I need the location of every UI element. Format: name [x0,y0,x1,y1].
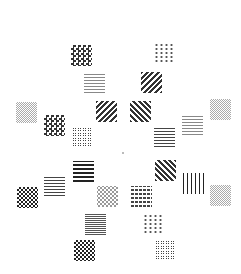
pattern-tile [74,240,95,261]
pattern-tile [154,126,175,147]
pattern-tile [210,99,231,120]
pattern-tile [97,186,118,207]
pattern-tile [210,185,231,206]
pattern-tile [155,240,176,261]
pattern-tile [44,115,65,136]
pattern-tile [17,187,38,208]
pattern-tile [71,45,92,66]
fixation-dot [122,152,124,154]
pattern-tile [96,101,117,122]
pattern-tile [84,72,105,93]
pattern-tile [155,160,176,181]
pattern-tile [73,161,94,182]
pattern-tile [44,175,65,196]
pattern-tile [143,214,164,235]
pattern-tile [131,186,152,207]
pattern-tile [183,173,204,194]
pattern-tile [182,114,203,135]
pattern-tile [130,101,151,122]
pattern-tile [141,72,162,93]
pattern-tile [16,102,37,123]
pattern-tile [154,43,175,64]
pattern-tile [72,127,93,148]
pattern-tile [85,214,106,235]
